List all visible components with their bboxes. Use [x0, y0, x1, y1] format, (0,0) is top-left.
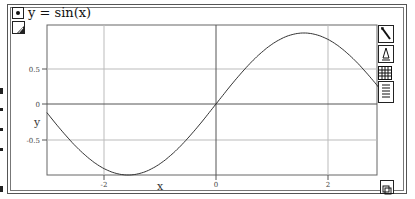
x-axis-label: x [157, 180, 164, 193]
y-tick-label: 0 [36, 101, 40, 109]
document-tool-button[interactable] [378, 81, 394, 103]
graph-toolbar [378, 25, 394, 105]
resize-button[interactable] [380, 180, 394, 194]
shape-tool-icon [379, 46, 393, 62]
y-tick-label: 0.5 [29, 66, 40, 74]
x-tick-label: 2 [326, 181, 330, 189]
pen-tool-icon [379, 26, 393, 42]
shape-tool-button[interactable] [378, 45, 394, 63]
y-axis-label: y [33, 116, 41, 129]
document-list-icon [379, 82, 393, 102]
grid-table-icon [378, 66, 392, 80]
table-tool-button[interactable] [378, 65, 392, 79]
x-tick-label: 0 [214, 181, 218, 189]
y-tick-label: -0.5 [27, 137, 41, 145]
pen-tool-button[interactable] [378, 25, 394, 43]
plot-area[interactable]: -2 0 2 0.5 0 -0.5 x y [0, 0, 415, 199]
resize-corner-icon [381, 184, 393, 196]
x-tick-label: -2 [101, 181, 108, 189]
